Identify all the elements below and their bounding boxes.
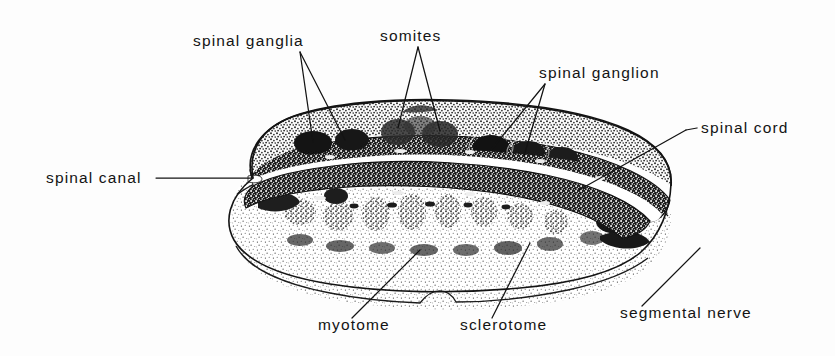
label-spinal-canal: spinal canal: [46, 169, 142, 186]
label-spinal-ganglion: spinal ganglion: [539, 64, 660, 81]
figure-root: spinal ganglia somites spinal ganglion s…: [0, 0, 835, 356]
label-somites: somites: [380, 27, 441, 44]
ganglion-blob: [335, 129, 369, 151]
ganglion-blob: [294, 131, 332, 155]
label-spinal-cord: spinal cord: [701, 119, 789, 136]
label-sclerotome: sclerotome: [460, 316, 547, 333]
label-segmental-nerve: segmental nerve: [620, 304, 752, 321]
label-spinal-ganglia: spinal ganglia: [193, 32, 304, 49]
specimen-drawing: [229, 100, 671, 310]
label-myotome: myotome: [318, 316, 390, 333]
embryo-section-figure: spinal ganglia somites spinal ganglion s…: [0, 0, 835, 356]
